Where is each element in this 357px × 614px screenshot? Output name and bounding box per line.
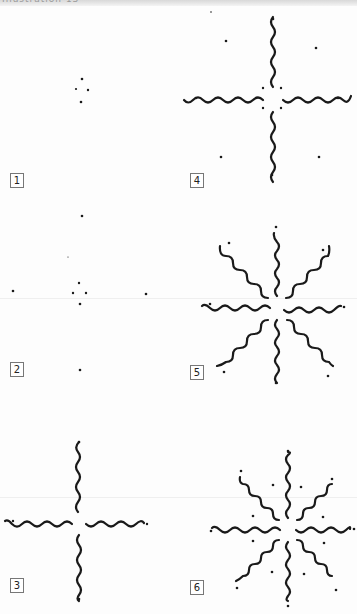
step-2-drawing bbox=[0, 200, 180, 400]
step-label: 6 bbox=[190, 580, 204, 595]
step-6-panel: 6 bbox=[180, 400, 357, 614]
step-2-panel: 2 bbox=[0, 200, 180, 400]
step-4-drawing bbox=[180, 0, 357, 200]
step-5-panel: 5 bbox=[180, 200, 357, 400]
step-label: 4 bbox=[190, 173, 204, 188]
step-4-panel: 4 bbox=[180, 0, 357, 200]
step-6-drawing bbox=[180, 400, 357, 614]
step-label: 3 bbox=[10, 578, 24, 593]
step-5-drawing bbox=[180, 200, 357, 400]
step-1-drawing bbox=[0, 0, 180, 200]
step-3-drawing bbox=[0, 400, 180, 614]
step-1-panel: 1 bbox=[0, 0, 180, 200]
step-label: 2 bbox=[10, 362, 24, 377]
step-label: 1 bbox=[10, 173, 24, 188]
step-3-panel: 3 bbox=[0, 400, 180, 614]
step-label: 5 bbox=[190, 365, 204, 380]
